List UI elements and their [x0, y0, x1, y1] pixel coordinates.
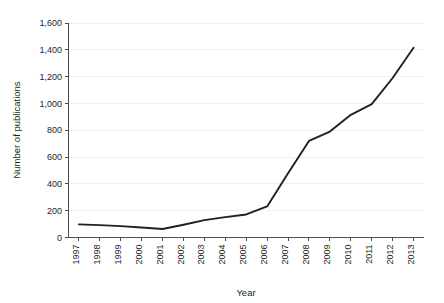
x-tick-label: 2009	[322, 245, 332, 265]
x-tick-label: 2003	[196, 245, 206, 265]
x-tick-label: 2001	[155, 245, 165, 265]
x-tick-label: 2012	[385, 245, 395, 265]
x-tick-label: 2002	[176, 245, 186, 265]
y-tick-label: 200	[47, 206, 62, 216]
y-tick-label: 0	[57, 233, 62, 243]
chart-figure: 02004006008001,0001,2001,4001,600 199719…	[0, 0, 444, 303]
y-tick-label: 1,600	[39, 18, 62, 28]
x-axis-title: Year	[236, 287, 255, 298]
y-tick-label: 800	[47, 125, 62, 135]
y-tick-label: 1,200	[39, 72, 62, 82]
y-tick-label: 400	[47, 179, 62, 189]
x-tick-label: 2005	[238, 245, 248, 265]
y-axis-title: Number of publications	[11, 81, 22, 178]
x-tick-label: 2008	[301, 245, 311, 265]
publications-line-chart: 02004006008001,0001,2001,4001,600 199719…	[0, 0, 444, 303]
x-tick-label: 1997	[71, 245, 81, 265]
x-tick-label: 1998	[92, 245, 102, 265]
y-tick-label: 1,000	[39, 99, 62, 109]
y-tick-label: 600	[47, 152, 62, 162]
x-tick-label: 2007	[280, 245, 290, 265]
x-tick-label: 1999	[113, 245, 123, 265]
x-tick-label: 2010	[343, 245, 353, 265]
x-tick-label: 2013	[406, 245, 416, 265]
x-tick-label: 2004	[217, 245, 227, 265]
y-tick-label: 1,400	[39, 45, 62, 55]
x-tick-label: 2006	[259, 245, 269, 265]
x-tick-label: 2000	[134, 245, 144, 265]
x-tick-label: 2011	[364, 245, 374, 264]
